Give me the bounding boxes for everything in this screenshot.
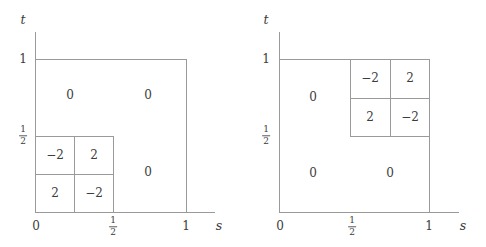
y-tick-half-denominator-right: 2 [262,137,270,147]
t-axis-label-left: t [20,14,25,27]
subgrid-cell-top-right-right: 2 [406,72,414,84]
subgrid-cell-bottom-right-right: −2 [401,111,419,123]
s-axis-right [279,212,459,213]
x-tick-zero-right: 0 [276,220,284,232]
subgrid-cell-bottom-left-right: 2 [366,111,374,123]
t-axis-label-right: t [263,14,268,27]
x-tick-one-right: 1 [425,220,433,232]
y-tick-half-denominator-left: 2 [19,137,27,147]
region-value-lower-left-right: 0 [309,167,317,179]
region-value-upper-left-right: 0 [309,91,317,103]
subgrid-cell-top-right-left: 2 [90,149,98,161]
region-value-lower-right-right: 0 [386,167,394,179]
x-tick-half-numerator-right: 1 [348,216,356,226]
outer-square-right-edge-left [186,59,187,213]
subgrid-cell-top-left-right: −2 [361,72,379,84]
x-tick-zero-left: 0 [32,220,40,232]
x-tick-half-denominator-right: 2 [348,228,356,238]
region-value-upper-left-left: 0 [66,89,74,101]
y-tick-half-left: 1 2 [19,125,27,146]
subgrid-cell-top-left-left: −2 [46,149,64,161]
y-tick-half-right: 1 2 [262,125,270,146]
outer-square-top-edge-left [35,59,187,60]
panel-right: t s 1 1 2 0 1 2 1 −2 2 2 −2 0 0 0 [243,0,486,247]
subgrid-cell-bottom-left-left: 2 [51,187,59,199]
s-axis-left [35,212,215,213]
two-panel-figure: t s 1 1 2 0 1 2 1 −2 2 2 −2 0 0 0 [0,0,486,247]
y-tick-half-numerator-left: 1 [19,125,27,135]
y-tick-one-right: 1 [262,53,270,65]
y-tick-half-numerator-right: 1 [262,125,270,135]
x-tick-one-left: 1 [182,220,190,232]
subgrid-cell-bottom-right-left: −2 [85,187,103,199]
outer-square-top-edge-right [279,59,430,60]
s-axis-label-right: s [460,220,466,233]
x-tick-half-left: 1 2 [109,216,117,237]
x-tick-half-right: 1 2 [348,216,356,237]
subgrid-mid-vertical-right [390,59,391,137]
subgrid-mid-vertical-left [74,136,75,213]
panel-left: t s 1 1 2 0 1 2 1 −2 2 2 −2 0 0 0 [0,0,243,247]
y-tick-one-left: 1 [19,53,27,65]
region-value-mid-right-left: 0 [144,166,152,178]
subgrid-left-edge-right [350,59,351,137]
subgrid-right-edge-left [113,136,114,213]
region-value-upper-right-left: 0 [144,89,152,101]
x-tick-half-numerator-left: 1 [109,216,117,226]
x-tick-half-denominator-left: 2 [109,228,117,238]
s-axis-label-left: s [216,220,222,233]
